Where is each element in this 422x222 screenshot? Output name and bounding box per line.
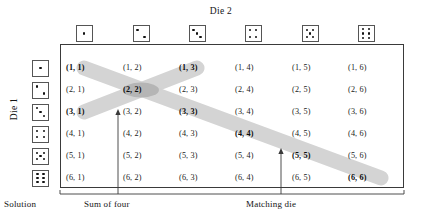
sample-space-cell-2-6: (2, 6) bbox=[348, 85, 367, 94]
sample-space-cell-5-3: (5, 3) bbox=[179, 151, 198, 160]
sample-space-cell-1-4: (1, 4) bbox=[235, 63, 254, 72]
sample-space-cell-6-1: (6, 1) bbox=[66, 173, 85, 182]
die-pip bbox=[199, 36, 201, 38]
solution-label: Solution bbox=[4, 199, 36, 209]
die2-face-3 bbox=[189, 25, 206, 42]
die-pip bbox=[249, 29, 251, 31]
die-pip bbox=[143, 36, 145, 38]
die-pip bbox=[136, 29, 138, 31]
die-pip bbox=[39, 67, 41, 69]
die2-face-2 bbox=[133, 25, 150, 42]
die2-face-5 bbox=[302, 25, 319, 42]
sample-space-cell-2-3: (2, 3) bbox=[179, 85, 198, 94]
figure-canvas: Die 2 Die 1 (1, 1)(1, 2)(1, 3)(1, 4)(1, … bbox=[0, 0, 422, 222]
die1-face-5 bbox=[32, 148, 49, 165]
die2-face-6 bbox=[358, 25, 375, 42]
die-pip bbox=[362, 32, 364, 34]
sample-space-cell-5-2: (5, 2) bbox=[123, 151, 142, 160]
die-pip bbox=[43, 115, 45, 117]
die-pip bbox=[42, 177, 44, 179]
die-pip bbox=[43, 152, 45, 154]
sample-space-cell-4-4: (4, 4) bbox=[235, 129, 254, 138]
die-pip bbox=[196, 32, 198, 34]
die-pip bbox=[36, 152, 38, 154]
die-pip bbox=[249, 36, 251, 38]
die-pip bbox=[43, 136, 45, 138]
die-pip bbox=[368, 28, 370, 30]
sample-space-cell-6-4: (6, 4) bbox=[235, 173, 254, 182]
sample-space-cell-2-1: (2, 1) bbox=[66, 85, 85, 94]
sample-space-cell-4-3: (4, 3) bbox=[179, 129, 198, 138]
die-pip bbox=[43, 130, 45, 132]
sample-space-cell-6-2: (6, 2) bbox=[123, 173, 142, 182]
die1-face-6 bbox=[32, 170, 49, 187]
sample-space-cell-3-5: (3, 5) bbox=[292, 107, 311, 116]
die-pip bbox=[309, 32, 311, 34]
die-pip bbox=[312, 29, 314, 31]
die-pip bbox=[36, 181, 38, 183]
sample-space-cell-1-6: (1, 6) bbox=[348, 63, 367, 72]
matching-die-label: Matching die bbox=[246, 199, 296, 209]
die-pip bbox=[36, 158, 38, 160]
sample-space-cell-5-6: (5, 6) bbox=[348, 151, 367, 160]
die-pip bbox=[368, 32, 370, 34]
die-pip bbox=[362, 28, 364, 30]
die-pip bbox=[36, 136, 38, 138]
sample-space-cell-6-3: (6, 3) bbox=[179, 173, 198, 182]
sample-space-cell-4-1: (4, 1) bbox=[66, 129, 85, 138]
die-pip bbox=[39, 111, 41, 113]
die-pip bbox=[43, 158, 45, 160]
sample-space-cell-4-6: (4, 6) bbox=[348, 129, 367, 138]
die-pip bbox=[255, 36, 257, 38]
die-pip bbox=[306, 36, 308, 38]
die1-axis-title: Die 1 bbox=[9, 87, 19, 131]
die-pip bbox=[312, 36, 314, 38]
die-pip bbox=[36, 177, 38, 179]
sample-space-cell-4-5: (4, 5) bbox=[292, 129, 311, 138]
sample-space-cell-6-6: (6, 6) bbox=[348, 173, 367, 182]
sample-space-cell-2-2: (2, 2) bbox=[123, 85, 142, 94]
sample-space-cell-3-2: (3, 2) bbox=[123, 107, 142, 116]
sample-space-cell-1-1: (1, 1) bbox=[66, 63, 85, 72]
die-pip bbox=[36, 85, 38, 87]
sample-space-cell-5-4: (5, 4) bbox=[235, 151, 254, 160]
die-pip bbox=[39, 155, 41, 157]
die-pip bbox=[83, 32, 85, 34]
die1-face-4 bbox=[32, 126, 49, 143]
die1-face-3 bbox=[32, 104, 49, 121]
sample-space-cell-1-2: (1, 2) bbox=[123, 63, 142, 72]
sum-of-four-label: Sum of four bbox=[84, 199, 130, 209]
die-pip bbox=[255, 29, 257, 31]
die-pip bbox=[43, 92, 45, 94]
die-pip bbox=[36, 130, 38, 132]
sample-space-cell-3-6: (3, 6) bbox=[348, 107, 367, 116]
die-pip bbox=[36, 173, 38, 175]
solution-bracket bbox=[60, 190, 404, 194]
sample-space-cell-4-2: (4, 2) bbox=[123, 129, 142, 138]
die-pip bbox=[306, 29, 308, 31]
sample-space-cell-3-1: (3, 1) bbox=[66, 107, 85, 116]
die2-face-4 bbox=[245, 25, 262, 42]
die-pip bbox=[42, 181, 44, 183]
die-pip bbox=[192, 29, 194, 31]
die1-face-1 bbox=[32, 60, 49, 77]
die-pip bbox=[42, 173, 44, 175]
sample-space-cell-5-1: (5, 1) bbox=[66, 151, 85, 160]
sample-space-cell-1-3: (1, 3) bbox=[179, 63, 198, 72]
die-pip bbox=[36, 107, 38, 109]
sample-space-cell-2-5: (2, 5) bbox=[292, 85, 311, 94]
sample-space-cell-2-4: (2, 4) bbox=[235, 85, 254, 94]
die-pip bbox=[368, 37, 370, 39]
die2-axis-title: Die 2 bbox=[186, 6, 256, 16]
sample-space-cell-3-3: (3, 3) bbox=[179, 107, 198, 116]
sample-space-cell-5-5: (5, 5) bbox=[292, 151, 311, 160]
sample-space-cell-1-5: (1, 5) bbox=[292, 63, 311, 72]
die-pip bbox=[362, 37, 364, 39]
sample-space-cell-3-4: (3, 4) bbox=[235, 107, 254, 116]
die1-face-2 bbox=[32, 82, 49, 99]
die2-face-1 bbox=[76, 25, 93, 42]
sample-space-cell-6-5: (6, 5) bbox=[292, 173, 311, 182]
